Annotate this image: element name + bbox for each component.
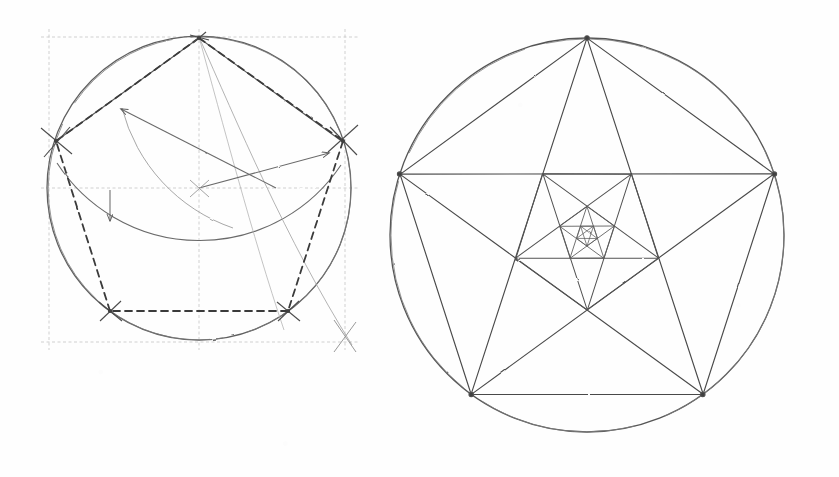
figure-sheet [0,0,839,477]
right-circumcircle-overdraw [391,39,784,432]
nested-pentagram [400,38,774,395]
vertex-dot-lower-right [286,309,290,313]
vertex-dot-top [197,36,201,40]
nested-pentagram [515,174,658,310]
vertex-dot-upper-right [341,139,345,143]
right-vertex-dot-left [397,172,401,176]
dashed-pentagon [56,38,343,311]
construction-arc-lower-right-2 [199,37,284,330]
construction-arrows [110,109,329,221]
geometry-drawing [0,0,839,477]
right-vertex-dot-lower-right [701,392,705,396]
right-vertex-dot-lower-left [469,392,473,396]
right-circumcircle [390,38,784,432]
cross-center [190,180,209,197]
construction-arc-left-swing [122,108,233,228]
vertex-dot-upper-left [54,139,58,143]
right-figure-nested-pentagram [390,36,784,432]
cross-bottom-right-outer [334,320,356,352]
construction-arc-lower-right [199,37,352,345]
right-vertex-dot-right [772,172,776,176]
tick-crosses [41,32,358,352]
arrow-to-upper-left-arc [121,109,276,188]
right-vertex-dot-top [585,36,589,40]
nested-pentagon [400,38,774,394]
vertex-dot-lower-left [108,309,112,313]
left-figure-pentagon-construction [41,29,360,352]
measure-rays [56,38,343,142]
